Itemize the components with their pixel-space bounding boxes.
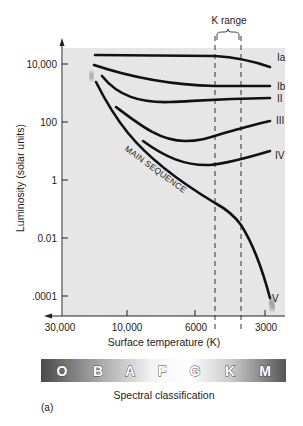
label-ia: Ia bbox=[277, 52, 286, 63]
x-axis-arrow-icon bbox=[44, 314, 52, 319]
panel-label: (a) bbox=[41, 402, 53, 413]
main-sequence-glow bbox=[90, 72, 93, 80]
y-axis-arrow-icon bbox=[60, 38, 65, 46]
label-ii: II bbox=[277, 93, 283, 104]
y-tick-00001: .0001 bbox=[32, 291, 57, 302]
spectral-b: B bbox=[93, 363, 103, 379]
x-tick-10000: 10,000 bbox=[112, 322, 143, 333]
label-iii: III bbox=[276, 115, 284, 126]
y-tick-1: 1 bbox=[51, 175, 57, 186]
spectral-o: O bbox=[57, 363, 68, 379]
y-tick-10000: 10,000 bbox=[26, 59, 57, 70]
k-range-label: K range bbox=[211, 15, 246, 26]
y-tick-100: 100 bbox=[40, 117, 57, 128]
spectral-f: F bbox=[158, 363, 167, 379]
spectral-a: A bbox=[125, 363, 135, 379]
x-tick-6000: 6000 bbox=[185, 322, 208, 333]
x-tick-30000: 30,000 bbox=[45, 322, 76, 333]
y-axis-title: Luminosity (solar units) bbox=[14, 124, 26, 232]
spectral-title: Spectral classification bbox=[114, 389, 215, 401]
spectral-k: K bbox=[225, 363, 235, 379]
label-ib: Ib bbox=[277, 81, 286, 92]
hr-diagram: 10,000 100 1 0.01 .0001 30,000 10,000 60… bbox=[0, 0, 303, 426]
k-range-brace-icon bbox=[217, 29, 239, 40]
label-iv: IV bbox=[275, 150, 285, 161]
x-axis-title: Surface temperature (K) bbox=[108, 336, 221, 348]
label-v: V bbox=[272, 293, 279, 304]
spectral-m: M bbox=[259, 363, 271, 379]
x-tick-3000: 3000 bbox=[255, 322, 278, 333]
spectral-g: G bbox=[190, 363, 201, 379]
y-tick-001: 0.01 bbox=[38, 233, 58, 244]
